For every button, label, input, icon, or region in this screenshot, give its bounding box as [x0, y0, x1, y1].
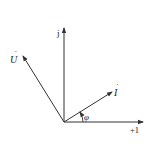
voltage-phasor: [23, 56, 64, 122]
real-axis-label: +1: [130, 125, 139, 135]
voltage-dot: ·: [15, 47, 18, 56]
angle-arc: [80, 112, 83, 122]
imag-axis-label: j: [56, 28, 60, 38]
current-dot: ·: [116, 80, 119, 89]
angle-label: φ: [84, 112, 89, 122]
phasor-diagram: j +1 U · I · φ: [0, 0, 155, 144]
